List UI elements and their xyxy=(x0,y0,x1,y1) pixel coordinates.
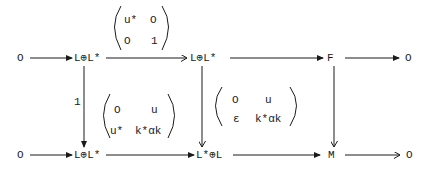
top-matrix-a22: 1 xyxy=(151,35,158,47)
top-matrix-a12: O xyxy=(150,14,157,26)
node-top-zero-left: O xyxy=(17,52,24,64)
node-top-zero-right: O xyxy=(405,52,412,64)
node-bottom-zero-right: O xyxy=(406,149,413,161)
middle-matrix-a12: u xyxy=(265,94,272,106)
label-left-vertical: 1 xyxy=(74,96,81,108)
bottom-matrix-a21: u* xyxy=(110,125,123,137)
node-bottom-m: M xyxy=(328,149,335,161)
top-matrix-a21: O xyxy=(124,35,131,47)
middle-matrix-a21: ε xyxy=(233,113,240,125)
top-matrix-right-paren xyxy=(162,6,169,50)
bottom-matrix-a22: k*αk xyxy=(135,125,161,137)
middle-matrix-left-paren xyxy=(216,87,223,126)
arrows-layer xyxy=(0,0,430,172)
middle-matrix-a11: O xyxy=(232,94,239,106)
bottom-matrix-a11: O xyxy=(114,104,121,116)
node-top-lplusldual-2: L⊕L* xyxy=(190,52,216,64)
node-top-lplusldual-1: L⊕L* xyxy=(74,52,100,64)
node-bottom-lplusldual: L⊕L* xyxy=(74,149,100,161)
middle-matrix-a22: k*αk xyxy=(255,113,281,125)
node-bottom-zero-left: O xyxy=(17,149,24,161)
bottom-matrix-a12: u xyxy=(151,104,158,116)
middle-matrix-right-paren xyxy=(290,87,297,126)
node-top-f: F xyxy=(327,52,334,64)
top-matrix-a11: u* xyxy=(124,14,137,26)
node-bottom-ldualplusl: L*⊕L xyxy=(196,149,222,161)
bottom-matrix-right-paren xyxy=(168,94,175,138)
top-matrix-left-paren xyxy=(115,6,122,50)
